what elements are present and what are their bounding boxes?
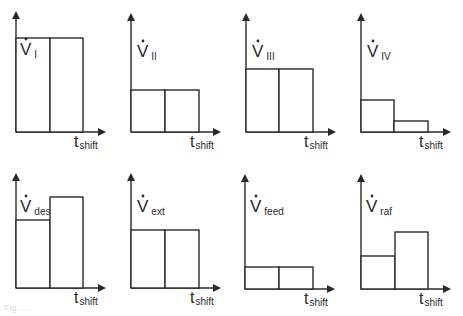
- step-interval-1: [131, 90, 165, 132]
- x-axis-label: tshift: [190, 289, 214, 307]
- x-axis-label: tshift: [419, 290, 443, 308]
- panel-v-ext: Vexttshift: [131, 175, 219, 307]
- step-interval-1: [361, 256, 395, 289]
- flow-rate-dot-icon: [257, 40, 260, 43]
- panel-v-des: Vdestshift: [16, 175, 104, 307]
- y-axis-label: VII: [137, 42, 157, 62]
- diagram-canvas: VItshiftVIItshiftVIIItshiftVIVtshiftVdes…: [0, 0, 463, 316]
- step-interval-1: [246, 69, 279, 132]
- step-interval-2: [395, 232, 428, 289]
- step-interval-2: [50, 38, 83, 132]
- step-interval-1: [361, 100, 394, 132]
- flow-rate-dot-icon: [142, 40, 145, 43]
- figure-caption: Fig. ...: [4, 303, 29, 313]
- flow-rate-dot-icon: [142, 195, 145, 198]
- panel-v-raf: Vraftshift: [361, 176, 449, 308]
- x-axis-label: tshift: [190, 133, 214, 151]
- step-interval-1: [131, 230, 165, 288]
- y-axis-label: Vfeed: [250, 197, 284, 217]
- y-axis-label: Vdes: [20, 197, 50, 217]
- panel-v-iv: VIVtshift: [361, 15, 449, 151]
- y-axis-label: VIV: [367, 42, 391, 62]
- x-axis-label: tshift: [74, 133, 98, 151]
- step-interval-1: [16, 220, 50, 288]
- x-axis-label: tshift: [74, 289, 98, 307]
- y-axis-label: Vraf: [366, 197, 392, 217]
- x-axis-label: tshift: [304, 133, 328, 151]
- flow-rate-dot-icon: [25, 195, 28, 198]
- flow-rate-dot-icon: [372, 40, 375, 43]
- panel-v-ii: VIItshift: [131, 15, 219, 151]
- panel-v-feed: Vfeedtshift: [245, 176, 333, 308]
- x-axis-label: tshift: [419, 133, 443, 151]
- flow-rate-dot-icon: [25, 38, 28, 41]
- step-interval-2: [279, 267, 313, 289]
- flow-rate-dot-icon: [255, 195, 258, 198]
- x-axis-label: tshift: [304, 290, 328, 308]
- panel-v-iii: VIIItshift: [246, 15, 334, 151]
- step-interval-2: [165, 230, 199, 288]
- flow-rate-dot-icon: [371, 195, 374, 198]
- step-interval-2: [50, 197, 83, 288]
- panel-v-i: VItshift: [16, 13, 104, 151]
- step-interval-2: [165, 90, 199, 132]
- y-axis-label: VIII: [252, 42, 275, 62]
- step-interval-1: [245, 267, 279, 289]
- step-interval-2: [279, 69, 313, 132]
- y-axis-label: Vext: [137, 197, 165, 217]
- step-interval-2: [394, 121, 428, 132]
